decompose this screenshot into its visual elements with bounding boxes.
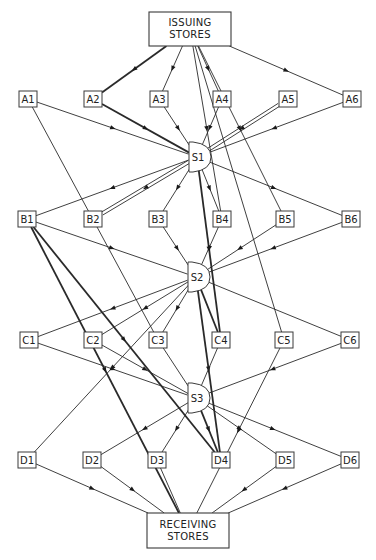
node-d5[interactable]: D5	[276, 452, 294, 468]
edge-d3-rs	[161, 468, 181, 513]
stores-network-diagram: ISSUING STORES RECEIVING STORES A1A2A3A4…	[0, 0, 376, 560]
node-b3[interactable]: B3	[149, 211, 167, 227]
issuing-stores-label-line2: STORES	[169, 29, 211, 40]
switch-label: S2	[191, 272, 204, 283]
issuing-stores-node[interactable]: ISSUING STORES	[149, 12, 231, 46]
receiving-stores-label-line1: RECEIVING	[159, 519, 216, 530]
node-label: A1	[21, 94, 34, 105]
arrowhead-icon	[270, 426, 277, 432]
node-a4[interactable]: A4	[213, 91, 231, 107]
switch-node-s3[interactable]: S3	[188, 383, 210, 413]
nodes-layer: ISSUING STORES RECEIVING STORES A1A2A3A4…	[18, 12, 361, 548]
edge-is-a6	[229, 46, 343, 95]
edge-line	[163, 348, 191, 390]
node-b4[interactable]: B4	[213, 211, 231, 227]
node-a1[interactable]: A1	[19, 91, 37, 107]
edge-s1-b3	[163, 165, 192, 211]
node-label: D5	[278, 455, 292, 466]
receiving-stores-label-line2: STORES	[167, 531, 209, 542]
node-b6[interactable]: B6	[342, 211, 360, 227]
arrowhead-icon	[271, 125, 278, 131]
arrowhead-icon	[270, 245, 277, 251]
node-label: D2	[85, 455, 99, 466]
arrowhead-icon	[169, 65, 175, 72]
arrowhead-icon	[174, 305, 181, 312]
switch-node-s1[interactable]: S1	[189, 142, 211, 172]
node-label: D6	[343, 455, 357, 466]
node-d6[interactable]: D6	[341, 452, 359, 468]
arrowhead-icon	[271, 185, 278, 191]
node-a5[interactable]: A5	[279, 91, 297, 107]
arrowhead-icon	[141, 425, 148, 432]
edge-line	[200, 348, 218, 390]
edge-is-b4	[193, 46, 221, 211]
node-a2[interactable]: A2	[84, 91, 102, 107]
node-label: C3	[151, 335, 164, 346]
node-c3[interactable]: C3	[149, 332, 167, 348]
node-label: C4	[214, 335, 227, 346]
node-b1[interactable]: B1	[18, 211, 36, 227]
edge-s1-b6	[205, 160, 342, 215]
arrowhead-icon	[174, 245, 181, 252]
node-label: B4	[215, 214, 228, 225]
arrowhead-icon	[236, 245, 243, 252]
edge-is-c5	[195, 46, 281, 332]
switch-label: S3	[191, 393, 204, 404]
edge-is-a2	[102, 46, 166, 93]
edge-b6-s2	[204, 222, 342, 273]
node-label: B5	[278, 214, 291, 225]
edge-c6-s3	[204, 343, 341, 394]
node-d4[interactable]: D4	[212, 452, 230, 468]
node-c4[interactable]: C4	[212, 332, 230, 348]
node-label: A4	[215, 94, 228, 105]
issuing-stores-label-line1: ISSUING	[168, 17, 211, 28]
node-d3[interactable]: D3	[148, 452, 166, 468]
arrowhead-icon	[129, 487, 136, 494]
arrowhead-icon	[89, 485, 96, 491]
edge-s3-d5	[203, 403, 276, 454]
node-d2[interactable]: D2	[83, 452, 101, 468]
edge-b4-s2	[200, 227, 219, 269]
node-b2[interactable]: B2	[84, 211, 102, 227]
edge-c4-s3	[200, 348, 218, 390]
node-c1[interactable]: C1	[20, 332, 38, 348]
node-a6[interactable]: A6	[343, 91, 361, 107]
edge-c2-s3	[102, 345, 188, 394]
switch-node-s2[interactable]: S2	[188, 262, 210, 292]
arrowhead-icon	[110, 125, 117, 131]
node-b5[interactable]: B5	[276, 211, 294, 227]
node-c2[interactable]: C2	[84, 332, 102, 348]
receiving-stores-node[interactable]: RECEIVING STORES	[147, 513, 229, 548]
node-c5[interactable]: C5	[275, 332, 293, 348]
arrowhead-icon	[240, 487, 247, 494]
edge-line	[204, 280, 341, 336]
edge-is-a4	[198, 46, 219, 91]
edge-s2-c6	[204, 280, 341, 336]
edges-layer	[31, 46, 343, 513]
node-label: C2	[86, 335, 99, 346]
node-label: D3	[150, 455, 164, 466]
node-label: B3	[151, 214, 164, 225]
edge-line	[161, 468, 181, 513]
node-label: A6	[345, 94, 358, 105]
node-d1[interactable]: D1	[18, 452, 36, 468]
node-label: B1	[20, 214, 33, 225]
node-label: C5	[277, 335, 290, 346]
arrowhead-icon	[109, 185, 116, 191]
edge-b1-d4	[33, 227, 214, 452]
edge-s3-d6	[204, 401, 341, 456]
arrowhead-icon	[174, 185, 181, 192]
edge-a3-s1	[164, 107, 192, 149]
node-label: D4	[214, 455, 228, 466]
node-a3[interactable]: A3	[150, 91, 168, 107]
arrowhead-icon	[283, 68, 290, 74]
edge-b3-s2	[163, 227, 191, 269]
edge-a2-s1	[102, 104, 189, 153]
arrowhead-icon	[109, 305, 116, 311]
node-label: C1	[22, 335, 35, 346]
node-label: B2	[86, 214, 99, 225]
arrowhead-icon	[173, 426, 180, 433]
edge-b5-s2	[204, 225, 276, 272]
node-c6[interactable]: C6	[341, 332, 359, 348]
edge-s3-d3	[162, 406, 191, 452]
